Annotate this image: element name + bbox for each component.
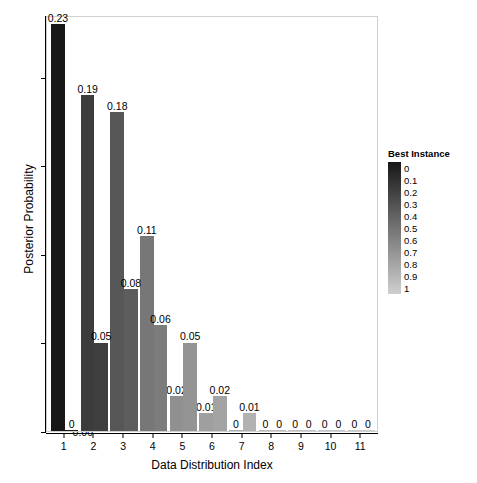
legend-tick-label: 0.9 bbox=[404, 271, 417, 282]
legend-tick-label: 0.7 bbox=[404, 247, 417, 258]
legend-tick-label: 0.1 bbox=[404, 175, 417, 186]
y-tick-mark bbox=[41, 343, 45, 344]
y-tick-mark bbox=[41, 166, 45, 167]
plot-panel: 0.230.190.180.110.020.010000000.050.080.… bbox=[46, 16, 378, 432]
bar-value-label: 0.01 bbox=[239, 402, 259, 413]
bar-value-label: 0 bbox=[351, 419, 357, 430]
x-tick-mark bbox=[271, 433, 272, 438]
x-tick-label: 2 bbox=[78, 440, 108, 452]
legend-tick-label: 0.2 bbox=[404, 187, 417, 198]
bar bbox=[243, 413, 257, 431]
bar-value-label: 0 bbox=[322, 419, 328, 430]
bar-value-label: 0 bbox=[365, 419, 371, 430]
legend-tick-label: 0.8 bbox=[404, 259, 417, 270]
legend-body: 00.10.20.30.40.50.60.70.80.91 bbox=[388, 162, 477, 294]
x-tick-mark bbox=[360, 433, 361, 438]
y-tick-mark bbox=[41, 432, 45, 433]
bar-value-label: 0.11 bbox=[137, 225, 157, 236]
bar-value-label: 0 bbox=[306, 419, 312, 430]
legend-tick-label: 0.3 bbox=[404, 199, 417, 210]
x-tick-label: 6 bbox=[197, 440, 227, 452]
x-tick-mark bbox=[330, 433, 331, 438]
bar-value-label: 0.02 bbox=[210, 385, 230, 396]
x-tick-label: 11 bbox=[345, 440, 375, 452]
bar-value-label: 0.05 bbox=[180, 331, 200, 342]
bar bbox=[51, 24, 65, 431]
bar-value-label: 0 bbox=[69, 419, 75, 430]
x-tick-mark bbox=[123, 433, 124, 438]
x-tick-mark bbox=[63, 433, 64, 438]
bar bbox=[140, 236, 154, 431]
bar bbox=[199, 413, 213, 431]
x-tick-label: 7 bbox=[227, 440, 257, 452]
legend-tick-label: 0.5 bbox=[404, 223, 417, 234]
x-tick-label: 3 bbox=[108, 440, 138, 452]
y-tick-mark bbox=[41, 78, 45, 79]
x-axis-title: Data Distribution Index bbox=[46, 458, 378, 472]
x-tick-label: 4 bbox=[138, 440, 168, 452]
legend-gradient-bar bbox=[388, 162, 401, 294]
bar-value-label: 0.23 bbox=[48, 13, 68, 24]
bar-value-label: 0.19 bbox=[77, 84, 97, 95]
x-tick-mark bbox=[93, 433, 94, 438]
x-tick-label: 5 bbox=[167, 440, 197, 452]
bar bbox=[110, 112, 124, 431]
bar-value-label: 0 bbox=[276, 419, 282, 430]
bar-value-label: 0 bbox=[292, 419, 298, 430]
bar bbox=[213, 396, 227, 431]
bar bbox=[170, 396, 184, 431]
bar-value-label: 0.05 bbox=[91, 331, 111, 342]
x-tick-label: 10 bbox=[316, 440, 346, 452]
bar-value-label: 0 bbox=[263, 419, 269, 430]
bar bbox=[183, 343, 197, 432]
plot-area: 0.230.190.180.110.020.010000000.050.080.… bbox=[47, 17, 377, 431]
legend-tick-label: 0.4 bbox=[404, 211, 417, 222]
bar-value-label: 0 bbox=[335, 419, 341, 430]
legend-title: Best Instance bbox=[388, 148, 477, 159]
x-tick-mark bbox=[182, 433, 183, 438]
y-tick-mark bbox=[41, 255, 45, 256]
x-tick-label: 9 bbox=[286, 440, 316, 452]
legend-tick-label: 0.6 bbox=[404, 235, 417, 246]
bar bbox=[81, 95, 95, 431]
x-tick-mark bbox=[152, 433, 153, 438]
x-tick-mark bbox=[241, 433, 242, 438]
bar-value-label: 0.18 bbox=[107, 101, 127, 112]
legend: Best Instance 00.10.20.30.40.50.60.70.80… bbox=[388, 148, 477, 294]
bar bbox=[94, 343, 108, 432]
bar bbox=[124, 289, 138, 431]
x-tick-mark bbox=[212, 433, 213, 438]
x-tick-label: 1 bbox=[49, 440, 79, 452]
legend-tick-label: 0 bbox=[404, 163, 409, 174]
y-axis-title: Posterior Probability bbox=[22, 104, 36, 334]
x-tick-label: 8 bbox=[256, 440, 286, 452]
bar-value-label: 0.08 bbox=[121, 278, 141, 289]
legend-tick-label: 1 bbox=[404, 283, 409, 294]
bar-value-label: 0.06 bbox=[150, 314, 170, 325]
chart-figure: Posterior Probability Data Distribution … bbox=[0, 0, 477, 483]
bar bbox=[154, 325, 168, 431]
x-tick-mark bbox=[300, 433, 301, 438]
bar-value-label: 0 bbox=[233, 419, 239, 430]
